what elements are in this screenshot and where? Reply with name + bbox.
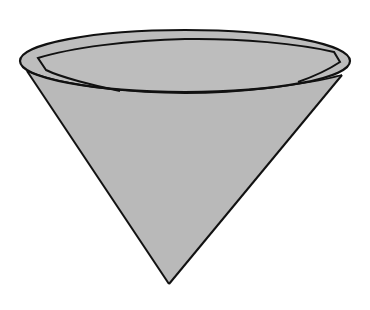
cone-body [27, 71, 342, 284]
cone-figure [0, 0, 370, 310]
cone-diagram [0, 0, 370, 310]
